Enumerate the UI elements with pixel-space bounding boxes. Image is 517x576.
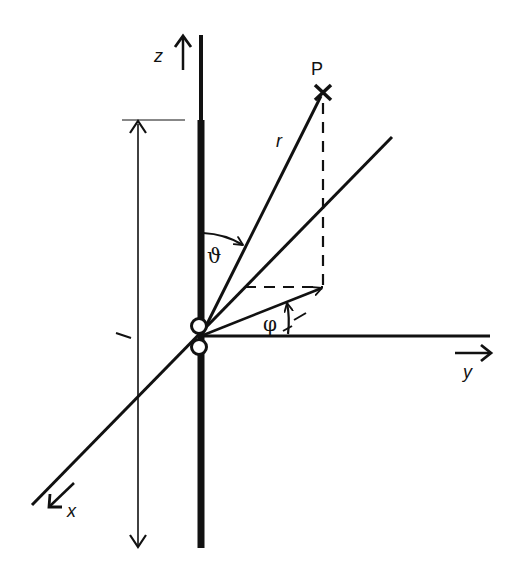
point-P-marker-icon: [315, 85, 331, 100]
phi-label: φ: [263, 312, 277, 336]
phi-arc-tick: [294, 313, 306, 320]
x-axis-label: x: [66, 501, 77, 521]
z-axis-label: z: [153, 46, 163, 66]
projection-dashed-lines: [245, 103, 323, 287]
point-P-label: P: [311, 59, 323, 79]
radius-label: r: [276, 131, 283, 151]
y-axis-label: y: [461, 362, 473, 382]
x-axis: [32, 137, 392, 505]
y-direction-arrow-icon: [455, 345, 491, 361]
length-dimension: [122, 120, 185, 547]
theta-label: ϑ: [207, 244, 221, 268]
length-label: [116, 333, 131, 338]
antenna-coordinate-diagram: z l x y r P ϑ φ: [0, 0, 517, 576]
z-direction-arrow-icon: [175, 36, 191, 70]
radius-vector: [201, 96, 321, 336]
